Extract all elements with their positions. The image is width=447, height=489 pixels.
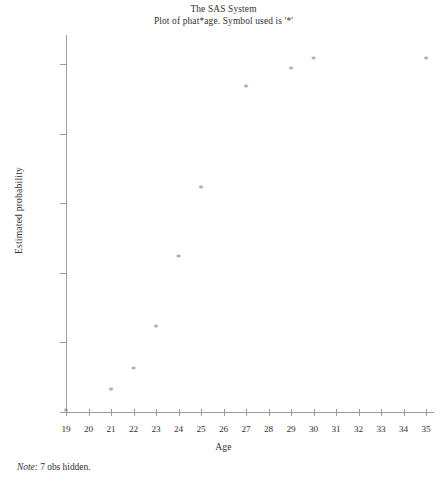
data-point-marker: * <box>422 55 431 64</box>
x-tick-mark <box>134 409 135 416</box>
data-point-marker: * <box>152 323 161 332</box>
data-point-marker: * <box>197 184 206 193</box>
data-point-marker: * <box>287 65 296 74</box>
data-point-marker: * <box>107 386 116 395</box>
x-tick-mark <box>246 409 247 416</box>
footnote-label: Note: <box>17 462 38 472</box>
y-tick-mark <box>60 273 67 274</box>
chart-title-block: The SAS System Plot of phat*age. Symbol … <box>0 3 447 27</box>
footnote-text: 7 obs hidden. <box>38 462 91 472</box>
y-tick-mark <box>60 134 67 135</box>
y-tick-mark <box>60 342 67 343</box>
x-tick-mark <box>224 409 225 416</box>
data-point-marker: * <box>309 55 318 64</box>
x-tick-mark <box>404 409 405 416</box>
y-tick-mark <box>60 203 67 204</box>
sas-scatter-plot-figure: The SAS System Plot of phat*age. Symbol … <box>0 0 447 489</box>
x-tick-mark <box>314 409 315 416</box>
footnote: Note: 7 obs hidden. <box>17 462 90 472</box>
x-tick-label: 35 <box>413 424 439 434</box>
x-tick-mark <box>381 409 382 416</box>
x-tick-mark <box>89 409 90 416</box>
data-point-marker: * <box>62 407 71 416</box>
chart-subtitle: Plot of phat*age. Symbol used is '*' <box>0 15 447 27</box>
y-tick-mark <box>60 64 67 65</box>
y-axis-label: Estimated probability <box>13 101 24 321</box>
x-tick-mark <box>359 409 360 416</box>
chart-title: The SAS System <box>0 3 447 15</box>
x-tick-mark <box>111 409 112 416</box>
data-point-marker: * <box>242 83 251 92</box>
x-axis-label: Age <box>0 441 447 452</box>
y-axis-line <box>66 35 67 413</box>
x-tick-mark <box>269 409 270 416</box>
x-axis-line <box>66 412 434 413</box>
x-tick-mark <box>201 409 202 416</box>
data-point-marker: * <box>129 365 138 374</box>
data-point-marker: * <box>174 253 183 262</box>
x-tick-mark <box>291 409 292 416</box>
x-tick-mark <box>156 409 157 416</box>
x-tick-mark <box>426 409 427 416</box>
x-tick-mark <box>336 409 337 416</box>
x-tick-mark <box>179 409 180 416</box>
